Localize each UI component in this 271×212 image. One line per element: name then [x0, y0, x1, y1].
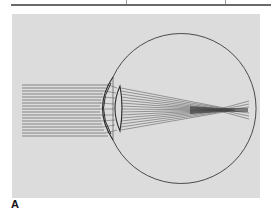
- incoming-rays: [22, 85, 108, 136]
- cornea-inner: [104, 83, 112, 134]
- lens: [115, 86, 122, 131]
- eye-ray-diagram: [0, 0, 271, 212]
- panel-label: A: [11, 199, 19, 210]
